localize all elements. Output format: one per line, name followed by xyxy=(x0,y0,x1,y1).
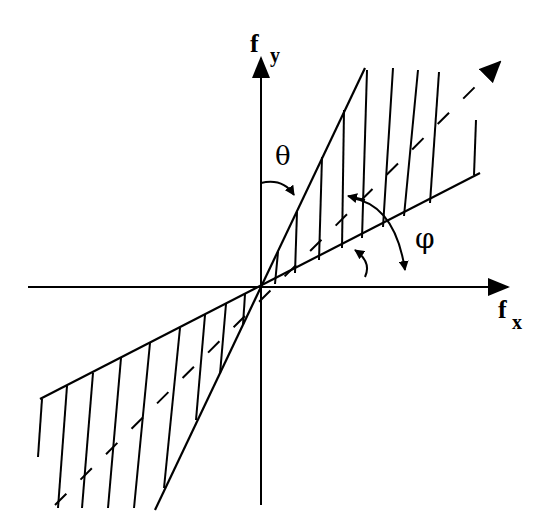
fx-label: f xyxy=(498,295,507,324)
fy-label: f xyxy=(250,29,259,58)
fy-label-sub: y xyxy=(270,44,280,67)
fx-label-sub: x xyxy=(512,311,522,333)
hatch-lower xyxy=(38,294,245,508)
theta-symbol: θ xyxy=(275,141,291,171)
theta-angle: θ xyxy=(261,141,294,195)
boundary-pointer-arrow xyxy=(355,250,367,277)
hatch-upper xyxy=(275,68,476,284)
phi-symbol: φ xyxy=(415,222,435,255)
sector-diagram: f y f x θ φ xyxy=(0,0,546,531)
center-line xyxy=(55,62,500,505)
